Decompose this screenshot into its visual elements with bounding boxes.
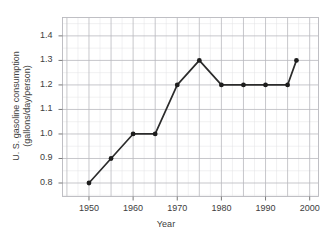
y-axis-title-line2: (gallons/day/person) [22, 65, 33, 147]
data-point-marker [285, 83, 290, 88]
x-tick-label: 1980 [201, 203, 241, 213]
data-point-marker [87, 181, 92, 186]
data-point-marker [241, 83, 246, 88]
x-tick-label: 1960 [113, 203, 153, 213]
y-axis-title: U. S. gasoline consumption (gallons/day/… [10, 16, 34, 196]
data-point-marker [175, 83, 180, 88]
data-point-marker [109, 156, 114, 161]
x-tick-label: 1990 [246, 203, 286, 213]
data-point-marker [153, 132, 158, 137]
data-point-marker [263, 83, 268, 88]
data-point-marker [131, 132, 136, 137]
x-tick-label: 2000 [290, 203, 330, 213]
x-axis-title: Year [0, 219, 332, 229]
data-point-marker [197, 58, 202, 63]
y-axis-title-line1: U. S. gasoline consumption [11, 51, 22, 161]
gasoline-consumption-line-chart: 0.80.91.01.11.21.31.4 195019601970198019… [0, 0, 332, 243]
x-tick-label: 1970 [157, 203, 197, 213]
data-point-marker [219, 83, 224, 88]
x-tick-label: 1950 [69, 203, 109, 213]
data-point-marker [294, 58, 299, 63]
